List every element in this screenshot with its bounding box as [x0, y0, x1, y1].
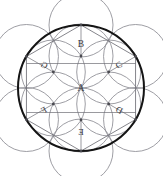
outer-vertex-dot-0	[80, 24, 83, 27]
inner-vertex-dot-4	[52, 103, 55, 106]
outer-vertex-dot-5	[25, 55, 28, 58]
region-label-b: B	[74, 40, 88, 50]
figure-root: ABCDEFG	[0, 0, 163, 176]
outer-vertex-dot-2	[134, 118, 137, 121]
inner-vertex-dot-3	[80, 119, 83, 122]
inner-vertex-dot-2	[107, 103, 110, 106]
inner-vertex-dot-1	[107, 71, 110, 74]
region-label-a: A	[74, 84, 88, 94]
outer-vertex-dot-1	[134, 55, 137, 58]
inner-vertex-dot-0	[80, 55, 83, 58]
inner-vertex-dot-5	[52, 71, 55, 74]
outer-vertex-dot-3	[80, 150, 83, 153]
region-label-e: E	[74, 128, 88, 137]
outer-vertex-dot-4	[25, 118, 28, 121]
